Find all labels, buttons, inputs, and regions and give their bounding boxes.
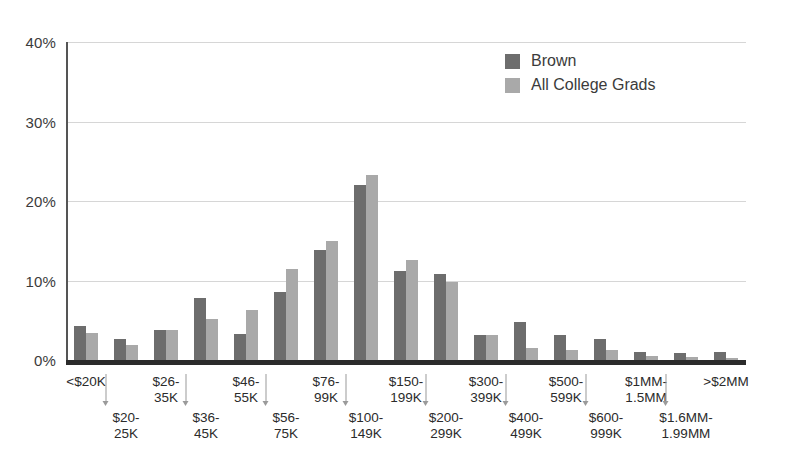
x-axis-category-label: $600-999K: [589, 410, 624, 442]
bar-all-college-grads: [526, 348, 538, 360]
label-leader-arrow-icon: [666, 374, 667, 402]
bar-group: [714, 42, 739, 360]
bar-group: [114, 42, 139, 360]
legend-label-all-college-grads: All College Grads: [531, 76, 656, 94]
bar-all-college-grads: [726, 358, 738, 360]
bar-brown: [314, 250, 326, 361]
bar-brown: [514, 322, 526, 360]
x-axis-category-label: $500-599K: [549, 374, 584, 406]
x-axis-category-label: $46-55K: [232, 374, 259, 406]
x-axis-line: [66, 360, 746, 365]
bar-brown: [594, 339, 606, 360]
x-axis-category-label: <$20K: [66, 374, 105, 390]
x-axis-category-label: >$2MM: [703, 374, 748, 390]
x-axis-category-label: $1.6MM-1.99MM: [659, 410, 712, 442]
bar-all-college-grads: [126, 345, 138, 360]
bar-brown: [154, 330, 166, 360]
bar-brown: [354, 185, 366, 360]
bar-brown: [554, 335, 566, 360]
label-leader-arrow-icon: [506, 374, 507, 402]
bar-all-college-grads: [606, 350, 618, 360]
bar-brown: [634, 352, 646, 360]
income-distribution-bar-chart: 0%10%20%30%40% Brown All College Grads <…: [0, 0, 786, 468]
x-axis-category-label: $200-299K: [429, 410, 464, 442]
x-axis-category-label: $26-35K: [152, 374, 179, 406]
bar-brown: [114, 339, 126, 360]
x-axis-category-label: $150-199K: [389, 374, 424, 406]
label-leader-arrow-icon: [426, 374, 427, 402]
bar-brown: [434, 274, 446, 360]
bar-all-college-grads: [326, 241, 338, 360]
bar-brown: [714, 352, 726, 360]
x-axis-category-label: $100-149K: [349, 410, 384, 442]
bar-brown: [674, 353, 686, 360]
bar-all-college-grads: [686, 357, 698, 360]
y-axis-tick-label: 30%: [4, 113, 56, 130]
bar-brown: [74, 326, 86, 360]
bar-all-college-grads: [246, 310, 258, 360]
y-axis-line: [66, 42, 68, 362]
bar-group: [194, 42, 219, 360]
bar-all-college-grads: [206, 319, 218, 360]
legend-item-all-college-grads: All College Grads: [505, 76, 656, 94]
label-leader-arrow-icon: [346, 374, 347, 402]
chart-legend: Brown All College Grads: [505, 52, 656, 100]
y-axis-tick-label: 20%: [4, 193, 56, 210]
bar-group: [154, 42, 179, 360]
x-axis-category-label: $76-99K: [312, 374, 339, 406]
legend-swatch-all-college-grads: [505, 78, 520, 93]
bar-all-college-grads: [566, 350, 578, 360]
x-axis-category-label: $300-399K: [469, 374, 504, 406]
x-axis-category-label: $36-45K: [192, 410, 219, 442]
bar-brown: [394, 271, 406, 360]
label-leader-arrow-icon: [586, 374, 587, 402]
bar-all-college-grads: [86, 333, 98, 360]
x-axis-category-label: $1MM-1.5MM: [625, 374, 667, 406]
bar-all-college-grads: [486, 335, 498, 360]
bar-all-college-grads: [406, 260, 418, 360]
bar-brown: [474, 335, 486, 360]
label-leader-arrow-icon: [266, 374, 267, 402]
legend-swatch-brown: [505, 54, 520, 69]
y-axis-tick-label: 40%: [4, 34, 56, 51]
label-leader-arrow-icon: [186, 374, 187, 402]
bar-group: [394, 42, 419, 360]
bar-group: [74, 42, 99, 360]
bar-all-college-grads: [646, 356, 658, 360]
bar-group: [434, 42, 459, 360]
bar-group: [314, 42, 339, 360]
bar-all-college-grads: [286, 269, 298, 360]
bar-all-college-grads: [366, 175, 378, 360]
label-leader-arrow-icon: [106, 374, 107, 402]
bar-all-college-grads: [166, 330, 178, 360]
bar-brown: [274, 292, 286, 360]
bar-group: [674, 42, 699, 360]
x-axis-category-label: $56-75K: [272, 410, 299, 442]
bar-group: [474, 42, 499, 360]
bar-all-college-grads: [446, 282, 458, 360]
bar-brown: [194, 298, 206, 360]
bar-brown: [234, 334, 246, 360]
bar-group: [354, 42, 379, 360]
x-axis-category-label: $20-25K: [112, 410, 139, 442]
x-axis-category-label: $400-499K: [509, 410, 544, 442]
legend-item-brown: Brown: [505, 52, 656, 70]
y-axis-tick-label: 0%: [4, 352, 56, 369]
bar-group: [274, 42, 299, 360]
bar-group: [234, 42, 259, 360]
y-axis-tick-label: 10%: [4, 272, 56, 289]
legend-label-brown: Brown: [531, 52, 576, 70]
